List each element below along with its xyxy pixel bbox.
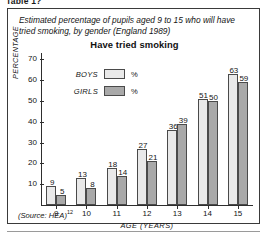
x-tick-label: 10 [74,209,98,218]
bar-boys-age-15: 63 [228,74,238,205]
x-axis-title: AGE (YEARS) [41,221,253,230]
bar-group: 2721 [137,53,157,205]
bar-girls-age-13: 39 [177,124,187,205]
bar-value-label: 14 [115,168,131,177]
bar-value-label: 5 [54,187,70,196]
y-tick-mark [40,163,44,164]
bar-group: 6359 [228,53,248,205]
bar-value-label: 59 [236,74,252,83]
bar-value-label: 50 [206,93,222,102]
y-tick-mark [40,101,44,102]
clipped-table-caption: Table 1? [6,0,41,6]
bar-value-label: 39 [175,116,191,125]
y-axis-line [41,53,42,206]
y-tick-label: 30 [28,138,37,147]
bar-group: 3639 [167,53,187,205]
bar-girls-age-12: 21 [147,161,157,205]
figure-title: Estimated percentage of pupils aged 9 to… [19,15,251,36]
y-tick-mark [40,80,44,81]
source-reference: 12 [67,209,73,215]
source-note: (Source: HEA)12 [18,209,73,220]
plot-area: PERCENTAGE AGE (YEARS) 10203040506070959… [41,53,253,205]
figure-frame: Estimated percentage of pupils aged 9 to… [7,8,260,224]
y-tick-mark [40,143,44,144]
y-tick-label: 20 [28,158,37,167]
bar-value-label: 27 [135,141,151,150]
x-tick-label: 14 [196,209,220,218]
bar-group: 1814 [107,53,127,205]
x-tick-label: 15 [226,209,250,218]
bar-girls-age-15: 59 [238,82,248,205]
bar-value-label: 13 [74,170,90,179]
bar-group: 95 [46,53,66,205]
y-tick-label: 40 [28,117,37,126]
bar-boys-age-13: 36 [167,130,177,205]
bar-boys-age-14: 51 [198,99,208,205]
bar-girls-age-14: 50 [208,101,218,205]
figure-screenshot: Table 1? Estimated percentage of pupils … [0,0,266,239]
x-tick-label: 11 [105,209,129,218]
y-tick-mark [40,122,44,123]
bar-value-label: 8 [84,180,100,189]
y-tick-label: 60 [28,75,37,84]
y-axis-title: PERCENTAGE [11,26,20,79]
bar-girls-age-10: 8 [86,188,96,205]
y-tick-mark [40,59,44,60]
x-tick-label: 12 [135,209,159,218]
x-tick-label: 13 [165,209,189,218]
y-tick-label: 70 [28,54,37,63]
bar-group: 5150 [198,53,218,205]
source-label: (Source: HEA) [18,211,67,220]
bar-group: 138 [76,53,96,205]
bottom-divider [7,231,260,232]
bar-girls-age-9: 5 [56,195,66,205]
bar-value-label: 21 [145,153,161,162]
y-tick-label: 10 [28,179,37,188]
y-tick-label: 50 [28,96,37,105]
chart-subtitle: Have tried smoking [8,39,261,50]
bar-girls-age-11: 14 [117,176,127,205]
